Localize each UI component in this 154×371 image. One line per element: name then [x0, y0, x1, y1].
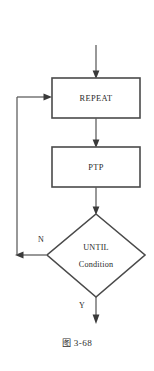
repeat-box-label: REPEAT [80, 94, 113, 103]
figure-container: REPEAT PTP UNTIL Condition [0, 0, 154, 371]
edge-ptp-to-until [93, 187, 100, 215]
edge-repeat-to-ptp [93, 118, 100, 148]
edge-until-yes-exit: Y [79, 297, 99, 324]
node-ptp[interactable]: PTP [52, 147, 140, 187]
loopback-left-arrowhead-icon [15, 252, 24, 259]
ptp-box-label: PTP [88, 163, 103, 172]
branch-label-yes: Y [79, 301, 85, 310]
until-diamond-outline [47, 214, 145, 297]
until-diamond-label-line2: Condition [79, 260, 114, 269]
edge-entry-to-repeat [93, 45, 100, 79]
branch-label-no: N [38, 235, 44, 244]
yes-exit-arrowhead-icon [93, 315, 100, 325]
node-repeat[interactable]: REPEAT [52, 78, 140, 118]
loopback-right-arrowhead-icon [44, 94, 53, 101]
until-diamond-label-line1: UNTIL [83, 243, 109, 252]
node-until-condition[interactable]: UNTIL Condition [47, 214, 145, 297]
edge-until-no-loopback: N [15, 94, 52, 259]
flowchart-canvas: REPEAT PTP UNTIL Condition [0, 0, 154, 371]
figure-caption: 图 3-68 [62, 338, 93, 348]
